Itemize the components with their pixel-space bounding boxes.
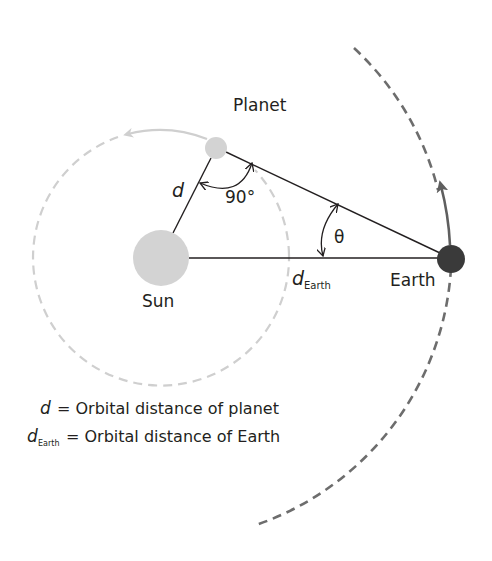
svg-text:Earth: Earth [38,439,59,448]
legend-item-d: d = Orbital distance of planet [40,398,279,418]
svg-text:d: d [40,398,51,418]
earth-body [437,245,465,273]
legend-item-d-earth: d Earth = Orbital distance of Earth [27,426,280,448]
planet-body [205,137,227,159]
legend: d = Orbital distance of planet d Earth =… [27,398,280,448]
svg-text:= Orbital distance of Earth: = Orbital distance of Earth [66,427,280,446]
right-angle-arc [200,163,252,188]
d-label: d [172,179,185,201]
svg-text:= Orbital distance of planet: = Orbital distance of planet [57,399,279,418]
geometry-lines [173,152,440,258]
earth-label: Earth [390,270,436,290]
svg-text:Earth: Earth [304,280,331,291]
d-earth-label: d Earth [292,267,331,291]
sun-label: Sun [142,291,174,311]
right-angle-label: 90° [225,187,255,207]
svg-text:d: d [27,426,38,446]
planet-earth-line [226,152,440,253]
theta-label: θ [334,227,344,247]
orbit-diagram: Planet Sun Earth d 90° θ d Earth d = Orb… [0,0,492,561]
planet-label: Planet [233,95,287,115]
sun-body [133,230,189,286]
